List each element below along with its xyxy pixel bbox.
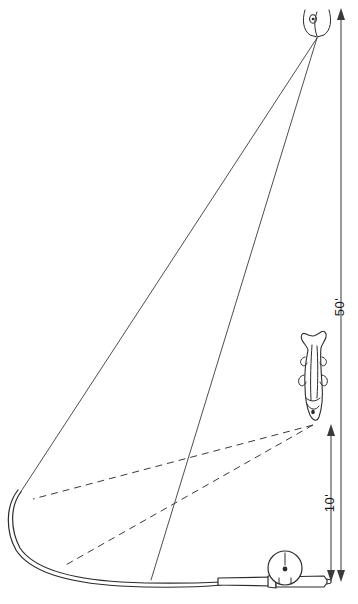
dimension-ten-feet: 10' <box>322 424 337 582</box>
spinning-reel <box>268 551 302 585</box>
dimension-label-50ft: 50' <box>332 298 347 316</box>
fishing-rod-diagram: 50' 10' <box>0 0 358 604</box>
dashed-line-lower <box>64 425 313 566</box>
rod-tip-guide-icon <box>303 10 330 37</box>
dimension-label-10ft: 10' <box>322 494 337 512</box>
dashed-line-upper <box>33 425 313 499</box>
line-from-tip-to-rod-tip <box>20 38 317 493</box>
line-from-tip-to-reel <box>151 38 317 580</box>
hooked-fish <box>299 331 328 420</box>
diagram-canvas: 50' 10' <box>0 0 358 604</box>
bent-fishing-rod <box>8 490 222 587</box>
